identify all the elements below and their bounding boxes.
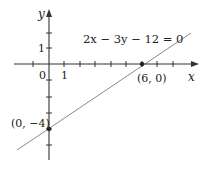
graph: y x 0 1 1 2x − 3y − 12 = 0 (6, 0) (0, −4…: [0, 0, 205, 169]
x-axis-arrow-icon: [191, 61, 199, 67]
origin-label: 0: [39, 69, 46, 82]
point-6-0: [140, 62, 144, 66]
point-label-6-0: (6, 0): [137, 72, 167, 85]
point-label-0-neg4: (0, −4): [11, 117, 50, 130]
y-tick-label-1: 1: [38, 42, 45, 55]
y-axis-label: y: [37, 7, 45, 21]
x-tick-label-1: 1: [61, 69, 68, 82]
equation-label: 2x − 3y − 12 = 0: [83, 32, 183, 46]
x-axis-label: x: [188, 70, 195, 84]
y-axis-arrow-icon: [46, 9, 52, 17]
